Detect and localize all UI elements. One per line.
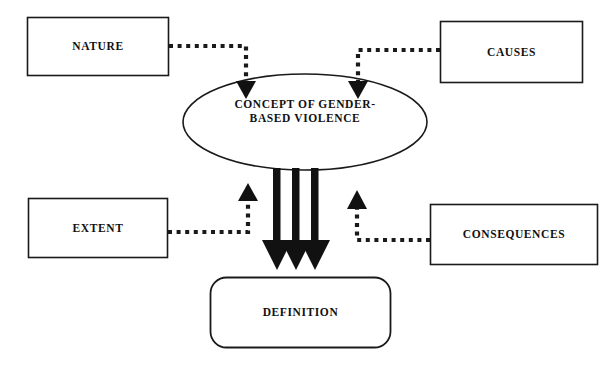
node-shape-causes[interactable] bbox=[441, 22, 583, 83]
diagram-canvas: NATURE CAUSES CONCEPT OF GENDER- BASED V… bbox=[0, 0, 613, 369]
node-shape-nature[interactable] bbox=[28, 18, 169, 76]
connector-concept-to-definition-3[interactable] bbox=[300, 168, 330, 270]
arrowhead-consequences bbox=[347, 190, 367, 209]
diagram-graphics bbox=[0, 0, 613, 369]
node-shape-concept[interactable] bbox=[183, 74, 427, 170]
arrowhead-extent bbox=[238, 183, 258, 201]
node-shape-consequences[interactable] bbox=[431, 205, 598, 265]
connector-consequences-to-concept[interactable] bbox=[347, 190, 430, 240]
node-shape-extent[interactable] bbox=[29, 199, 168, 258]
connector-concept-to-definition-1[interactable] bbox=[262, 168, 292, 270]
node-shape-definition[interactable] bbox=[211, 278, 391, 348]
connector-concept-to-definition-2[interactable] bbox=[281, 168, 311, 270]
connector-extent-to-concept[interactable] bbox=[168, 183, 258, 232]
